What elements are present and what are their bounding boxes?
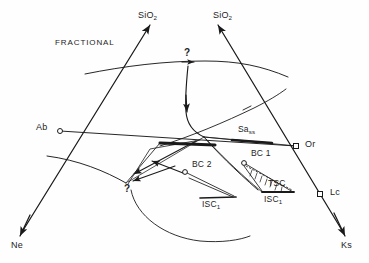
bc2-node-marker: [183, 170, 188, 175]
node-markers-layer: [0, 0, 369, 263]
ab-node-marker: [58, 129, 63, 134]
or-node-marker: [294, 144, 299, 149]
bc1-node-marker: [242, 161, 247, 166]
phase-diagram-figure: FRACTIONAL SiO2 SiO2 Ne Ks Ab Or Lc Sass…: [0, 0, 369, 263]
lc-node-marker: [318, 192, 323, 197]
